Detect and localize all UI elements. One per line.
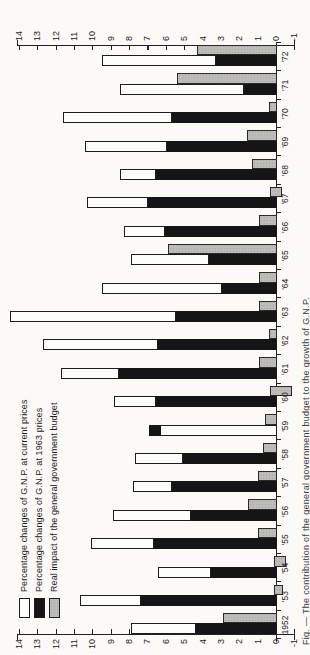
gnp-current-prices-bar (102, 56, 217, 67)
value-label-right: 11 (69, 21, 80, 41)
gray-swatch-icon (49, 598, 60, 618)
value-label-left: 14 (14, 639, 25, 655)
gnp-1963-prices-bar (215, 56, 277, 67)
gnp-1963-prices-bar (171, 112, 277, 123)
legend-label: Real impact of the general government bu… (49, 402, 59, 592)
budget-impact-bar (248, 499, 277, 510)
value-label-left: 2 (234, 639, 245, 655)
value-label-right: 10 (87, 21, 98, 41)
value-label-left: 4 (198, 639, 209, 655)
value-label-left: 11 (69, 639, 80, 655)
year-label: '64 (280, 270, 290, 298)
value-label-right: 1 (253, 21, 264, 41)
value-tick-right (147, 45, 148, 51)
budget-impact-bar (168, 244, 277, 255)
bar-chart: 1414131312121111101099887766554433221100… (0, 0, 310, 655)
gnp-1963-prices-bar (182, 453, 277, 464)
value-label-right: 5 (179, 21, 190, 41)
gnp-current-prices-bar (91, 538, 154, 549)
budget-impact-bar (259, 272, 277, 283)
year-label: '70 (280, 100, 290, 128)
value-label-right: 14 (14, 21, 25, 41)
year-label: '68 (280, 157, 290, 185)
value-label-right: 13 (32, 21, 43, 41)
budget-impact-bar (259, 215, 277, 226)
gnp-1963-prices-bar (153, 538, 277, 549)
gnp-1963-prices-bar (208, 254, 277, 265)
gnp-1963-prices-bar (149, 425, 161, 436)
budget-impact-bar (265, 414, 277, 425)
year-label: '72 (280, 43, 290, 71)
year-label: '61 (280, 355, 290, 383)
year-label: '56 (280, 497, 290, 525)
gnp-1963-prices-bar (155, 396, 277, 407)
legend-item-current-prices: Percentage changes of G.N.P. at current … (17, 399, 31, 618)
value-tick-right (19, 45, 20, 51)
value-label-left: 13 (32, 639, 43, 655)
year-label: '67 (280, 185, 290, 213)
year-label: '63 (280, 299, 290, 327)
value-label-left: 1 (253, 639, 264, 655)
budget-impact-bar (269, 102, 277, 113)
value-label-right: 3 (216, 21, 227, 41)
budget-impact-bar (259, 301, 277, 312)
year-label: '55 (280, 526, 290, 554)
year-label: '59 (280, 412, 290, 440)
year-label: '66 (280, 213, 290, 241)
gnp-current-prices-bar (63, 112, 172, 123)
gnp-current-prices-bar (135, 453, 184, 464)
value-tick-right (111, 45, 112, 51)
value-label-right: 12 (51, 21, 62, 41)
value-tick-left (19, 630, 20, 636)
black-swatch-icon (34, 598, 45, 618)
value-label-right: 2 (234, 21, 245, 41)
year-label: '69 (280, 128, 290, 156)
budget-impact-bar (247, 130, 277, 141)
year-label: '71 (280, 71, 290, 99)
value-tick-right (129, 45, 130, 51)
value-tick-left (37, 630, 38, 636)
value-label-right: 8 (124, 21, 135, 41)
gnp-1963-prices-bar (210, 567, 277, 578)
gnp-current-prices-bar (80, 595, 142, 606)
year-label: '58 (280, 441, 290, 469)
value-label-left: 6 (161, 639, 172, 655)
year-label: '65 (280, 242, 290, 270)
value-tick-right (92, 45, 93, 51)
gnp-current-prices-bar (120, 169, 156, 180)
budget-impact-bar (258, 471, 277, 482)
year-label: '54 (280, 554, 290, 582)
budget-impact-bar (269, 329, 277, 340)
value-tick-left (294, 630, 295, 636)
scanned-page: 1414131312121111101099887766554433221100… (0, 0, 310, 655)
year-label: '62 (280, 327, 290, 355)
value-label-right: -1 (289, 21, 300, 41)
rotated-chart-wrapper: 1414131312121111101099887766554433221100… (0, 0, 310, 655)
gnp-current-prices-bar (160, 425, 277, 436)
gnp-1963-prices-bar (243, 84, 277, 95)
value-label-left: 3 (216, 639, 227, 655)
legend-label: Percentage changes of G.N.P. at current … (19, 399, 29, 592)
gnp-1963-prices-bar (175, 311, 277, 322)
value-label-left: 10 (87, 639, 98, 655)
legend-item-budget-impact: Real impact of the general government bu… (47, 399, 61, 618)
value-tick-left (111, 630, 112, 636)
value-label-left: 12 (51, 639, 62, 655)
value-tick-left (56, 630, 57, 636)
gnp-1963-prices-bar (140, 595, 277, 606)
gnp-current-prices-bar (43, 340, 158, 351)
value-label-right: 9 (106, 21, 117, 41)
gnp-1963-prices-bar (157, 340, 277, 351)
value-label-left: 7 (142, 639, 153, 655)
value-tick-right (294, 45, 295, 51)
legend-label: Percentage changes of G.N.P. at 1963 pri… (34, 408, 44, 592)
gnp-1963-prices-bar (221, 283, 277, 294)
budget-impact-bar (197, 45, 277, 56)
budget-impact-bar (177, 73, 277, 84)
value-tick-right (74, 45, 75, 51)
year-label: '53 (280, 583, 290, 611)
value-tick-right (166, 45, 167, 51)
budget-impact-bar (263, 443, 277, 454)
gnp-current-prices-bar (120, 84, 244, 95)
gnp-current-prices-bar (113, 510, 191, 521)
